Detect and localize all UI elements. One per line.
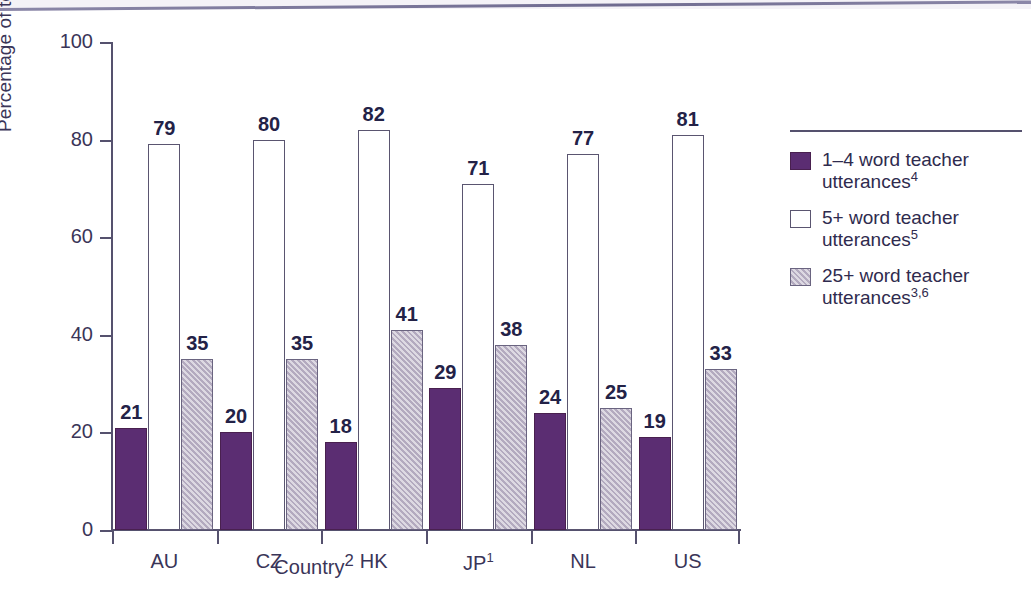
x-axis-title-superscript: 2	[344, 551, 353, 570]
y-axis-tick: 80	[100, 140, 112, 142]
bar-hk-series-2[interactable]: 82	[358, 130, 390, 530]
y-axis-tick-label: 100	[60, 30, 93, 53]
y-axis-tick-label: 60	[71, 225, 93, 248]
y-axis-tick: 20	[100, 432, 112, 434]
hatched-lavender-swatch-icon	[790, 268, 811, 286]
bar-value-label: 19	[644, 410, 666, 433]
bar-nl-series-2[interactable]: 77	[567, 154, 599, 530]
legend-item-1-4-word[interactable]: 1–4 word teacher utterances4	[790, 149, 1022, 194]
legend-label-5-plus-word: 5+ word teacher utterances5	[822, 207, 1022, 252]
y-axis-tick: 0	[100, 530, 112, 532]
y-axis-title: Percentage of teacher utterances	[0, 0, 16, 132]
bar-jp-series-3[interactable]: 38	[495, 345, 527, 530]
x-axis-title-text: Country	[274, 556, 344, 578]
y-axis-tick: 100	[100, 42, 112, 44]
plot-area: 020406080100AU217935CZ208035HK188241JP12…	[112, 42, 740, 530]
chart-legend: 1–4 word teacher utterances4 5+ word tea…	[790, 130, 1022, 322]
x-axis-tick	[635, 531, 637, 544]
bar-hk-series-3[interactable]: 41	[391, 330, 423, 530]
legend-label-superscript: 3,6	[911, 285, 929, 300]
bar-nl-series-1[interactable]: 24	[534, 413, 566, 530]
bar-au-series-3[interactable]: 35	[181, 359, 213, 530]
legend-item-25-plus-word[interactable]: 25+ word teacher utterances3,6	[790, 265, 1022, 310]
bar-value-label: 25	[605, 381, 627, 404]
bar-value-label: 21	[120, 401, 142, 424]
bar-value-label: 71	[467, 157, 489, 180]
bar-value-label: 79	[153, 117, 175, 140]
y-axis-tick: 60	[100, 237, 112, 239]
bar-us-series-1[interactable]: 19	[639, 437, 671, 530]
x-axis-category-label: CZ	[256, 550, 283, 573]
bar-us-series-2[interactable]: 81	[672, 135, 704, 530]
bar-value-label: 41	[396, 303, 418, 326]
legend-label-superscript: 5	[911, 227, 918, 242]
x-axis-tick	[321, 531, 323, 544]
bar-value-label: 33	[710, 342, 732, 365]
x-axis-category-label: HK	[360, 550, 388, 573]
legend-label-25-plus-word: 25+ word teacher utterances3,6	[822, 265, 1022, 310]
x-axis-category-text: CZ	[256, 550, 283, 572]
bar-us-series-3[interactable]: 33	[705, 369, 737, 530]
bar-au-series-1[interactable]: 21	[115, 428, 147, 530]
bar-nl-series-3[interactable]: 25	[600, 408, 632, 530]
x-axis-category-label: NL	[570, 550, 596, 573]
bar-value-label: 82	[363, 103, 385, 126]
white-outline-swatch-icon	[790, 210, 811, 228]
bar-jp-series-2[interactable]: 71	[462, 184, 494, 530]
bar-value-label: 35	[291, 332, 313, 355]
x-axis-category-text: NL	[570, 550, 596, 572]
x-axis-category-text: HK	[360, 550, 388, 572]
bar-value-label: 77	[572, 127, 594, 150]
bar-value-label: 18	[330, 415, 352, 438]
bar-value-label: 81	[677, 108, 699, 131]
legend-label-superscript: 4	[911, 169, 918, 184]
legend-item-5-plus-word[interactable]: 5+ word teacher utterances5	[790, 207, 1022, 252]
solid-purple-swatch-icon	[790, 152, 811, 170]
x-axis-tick	[112, 531, 114, 544]
x-axis-category-label: JP1	[463, 550, 494, 575]
bar-value-label: 29	[434, 361, 456, 384]
bar-cz-series-1[interactable]: 20	[220, 432, 252, 530]
y-axis-tick-label: 0	[82, 518, 93, 541]
x-axis-tick	[426, 531, 428, 544]
x-axis-title: Country2	[274, 551, 353, 579]
legend-label-text: 1–4 word teacher utterances	[822, 149, 969, 192]
x-axis-category-text: US	[674, 550, 702, 572]
bar-cz-series-3[interactable]: 35	[286, 359, 318, 530]
bar-value-label: 20	[225, 405, 247, 428]
x-axis-tick	[531, 531, 533, 544]
y-axis-tick-label: 40	[71, 323, 93, 346]
x-axis-tick	[738, 531, 740, 544]
y-axis-tick: 40	[100, 335, 112, 337]
legend-top-rule	[790, 130, 1022, 132]
x-axis-category-label: US	[674, 550, 702, 573]
x-axis-category-label: AU	[150, 550, 178, 573]
bar-value-label: 38	[500, 318, 522, 341]
bar-value-label: 80	[258, 113, 280, 136]
bar-jp-series-1[interactable]: 29	[429, 388, 461, 530]
bar-value-label: 35	[186, 332, 208, 355]
x-axis-category-text: JP	[463, 552, 486, 574]
legend-label-text: 25+ word teacher utterances	[822, 265, 969, 308]
x-axis-category-text: AU	[150, 550, 178, 572]
x-axis-category-superscript: 1	[486, 550, 493, 565]
y-axis-tick-label: 80	[71, 128, 93, 151]
bar-au-series-2[interactable]: 79	[148, 144, 180, 530]
bar-value-label: 24	[539, 386, 561, 409]
y-axis-tick-label: 20	[71, 420, 93, 443]
x-axis-tick	[217, 531, 219, 544]
legend-label-text: 5+ word teacher utterances	[822, 207, 959, 250]
bar-hk-series-1[interactable]: 18	[325, 442, 357, 530]
legend-label-1-4-word: 1–4 word teacher utterances4	[822, 149, 1022, 194]
bar-cz-series-2[interactable]: 80	[253, 140, 285, 530]
